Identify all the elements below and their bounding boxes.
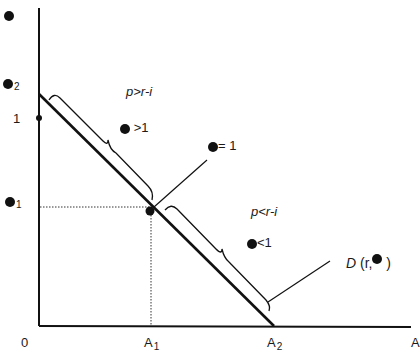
lower-brace <box>165 206 270 311</box>
y-axis-top-symbol <box>4 8 14 21</box>
bullet-icon <box>120 124 130 134</box>
leader-line-equal <box>154 160 207 207</box>
equal-point-label: = 1 <box>208 139 236 152</box>
bullet-icon <box>247 239 257 249</box>
x-axis-end-label: A <box>411 336 420 349</box>
demand-line <box>39 94 274 326</box>
bullet-icon <box>3 79 13 89</box>
x-axis <box>39 326 411 327</box>
lower-region-condition: p<r-i <box>251 205 277 218</box>
x-tick-a1: A1 <box>144 336 159 352</box>
demand-curve-label: D (r, ) <box>346 254 391 270</box>
upper-brace <box>49 95 153 200</box>
bullet-icon <box>208 142 218 152</box>
origin-label: 0 <box>21 336 28 349</box>
diagram-canvas <box>0 0 420 357</box>
y-label-2: 2 <box>3 76 20 92</box>
y-label-sub1: 1 <box>5 194 22 210</box>
bullet-icon <box>4 11 14 21</box>
y-label-1: 1 <box>13 112 20 125</box>
bullet-icon <box>5 197 15 207</box>
bullet-icon <box>372 254 382 264</box>
upper-region-condition: p>r-i <box>126 85 152 98</box>
equilibrium-point <box>146 207 155 216</box>
x-tick-a2: A2 <box>267 336 282 352</box>
upper-region-marker: >1 <box>120 121 148 134</box>
lower-region-marker: <1 <box>247 236 272 249</box>
y-axis-point-1 <box>36 115 42 121</box>
leader-line-demand <box>268 261 330 302</box>
